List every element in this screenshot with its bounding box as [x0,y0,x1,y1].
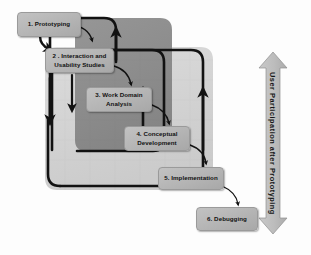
stage-1-label: 1. Prototyping [28,20,70,28]
stage-box-4[interactable]: 4. Conceptual Development [124,126,190,151]
diagram-canvas: 1. Prototyping 2 . Interaction and Usabi… [0,0,311,255]
stage-box-6[interactable]: 6. Debugging [196,207,258,231]
stage-5-label: 5. Implementation [164,174,217,182]
stage-2-label: 2 . Interaction and Usability Studies [48,52,111,68]
participation-arrow-label: User Participation after Prototyping [268,72,277,215]
stage-box-2[interactable]: 2 . Interaction and Usability Studies [45,48,114,73]
stage-box-3[interactable]: 3. Work Domain Analysis [86,87,152,112]
stage-3-label: 3. Work Domain Analysis [89,91,149,107]
stage-4-label: 4. Conceptual Development [127,130,187,146]
stage-6-label: 6. Debugging [207,215,247,223]
connector-5-6 [222,186,238,204]
stage-box-1[interactable]: 1. Prototyping [17,12,81,37]
stage-box-5[interactable]: 5. Implementation [158,167,224,190]
